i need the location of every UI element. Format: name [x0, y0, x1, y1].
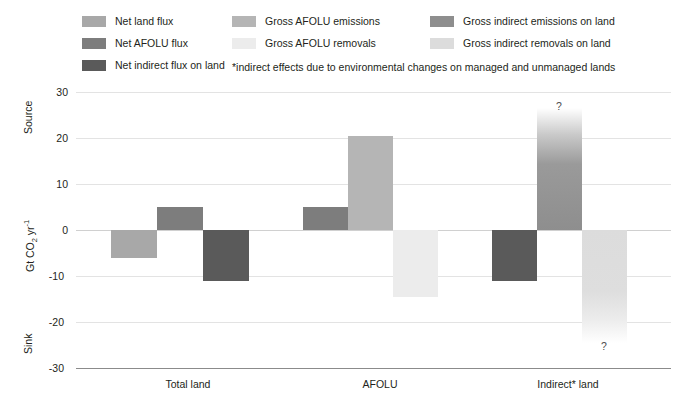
legend-swatch-gross-afolu-emissions — [232, 16, 256, 27]
legend-label: Net land flux — [115, 16, 173, 27]
x-axis-label-total-land: Total land — [128, 378, 248, 390]
legend-net-land-flux: Net land flux — [82, 16, 173, 27]
legend-swatch-net-afolu-flux — [82, 38, 106, 49]
axis-source-label: Source — [22, 101, 34, 134]
legend-net-indirect-flux-on-land: Net indirect flux on land — [82, 60, 225, 71]
axis-sink-label: Sink — [22, 334, 34, 354]
legend-label: Gross indirect emissions on land — [463, 16, 615, 27]
legend-footnote: *indirect effects due to environmental c… — [232, 61, 615, 73]
legend-swatch-gross-afolu-removals — [232, 38, 256, 49]
bar-total-land-net-afolu-flux — [157, 207, 203, 230]
legend-swatch-net-indirect-flux-on-land — [82, 60, 106, 71]
legend-gross-afolu-emissions: Gross AFOLU emissions — [232, 16, 380, 27]
bar-afolu-net-afolu-flux — [303, 207, 348, 230]
chart-page: Net land flux Net AFOLU flux Net indirec… — [0, 0, 684, 411]
bar-afolu-gross-removals — [393, 230, 438, 297]
y-tick-label-0: 0 — [34, 224, 68, 236]
axis-unit-prefix: Gt CO — [24, 242, 36, 272]
legend-gross-indirect-emissions-on-land: Gross indirect emissions on land — [430, 16, 615, 27]
axis-area: ? ? — [76, 92, 671, 368]
y-tick-label-30: 30 — [34, 86, 68, 98]
chart-legend: Net land flux Net AFOLU flux Net indirec… — [0, 0, 684, 82]
y-tick-label--20: -20 — [30, 316, 64, 328]
bar-total-land-net-indirect-flux — [203, 230, 249, 281]
bar-afolu-gross-emissions — [348, 136, 393, 230]
axis-unit-subscript: 2 — [30, 238, 39, 242]
legend-gross-afolu-removals: Gross AFOLU removals — [232, 38, 376, 49]
bar-indirect-net-indirect-flux — [492, 230, 537, 281]
plot-area: Source Sink Gt CO2 yr-1 30 20 10 0 -10 -… — [0, 82, 684, 411]
legend-label: Gross AFOLU emissions — [265, 16, 380, 27]
legend-label: Gross indirect removals on land — [463, 38, 611, 49]
axis-baseline — [76, 368, 671, 369]
x-axis-label-indirect-land: Indirect* land — [508, 378, 628, 390]
x-axis-label-afolu: AFOLU — [320, 378, 440, 390]
legend-gross-indirect-removals-on-land: Gross indirect removals on land — [430, 38, 611, 49]
bar-total-land-net-land-flux — [111, 230, 157, 258]
bar-indirect-gross-emissions — [537, 108, 582, 230]
y-tick-label--30: -30 — [30, 362, 64, 374]
bar-indirect-gross-removals — [582, 230, 627, 343]
gridline-30 — [76, 92, 671, 93]
legend-swatch-gross-indirect-emissions-on-land — [430, 16, 454, 27]
axis-unit-superscript: -1 — [22, 220, 31, 227]
legend-label: Gross AFOLU removals — [265, 38, 376, 49]
uncertainty-marker-removals: ? — [594, 340, 614, 352]
legend-net-afolu-flux: Net AFOLU flux — [82, 38, 188, 49]
y-tick-label-10: 10 — [34, 178, 68, 190]
legend-swatch-gross-indirect-removals-on-land — [430, 38, 454, 49]
y-tick-label--10: -10 — [30, 270, 64, 282]
legend-label: Net indirect flux on land — [115, 60, 225, 71]
y-tick-label-20: 20 — [34, 132, 68, 144]
legend-label: Net AFOLU flux — [115, 38, 188, 49]
legend-swatch-net-land-flux — [82, 16, 106, 27]
uncertainty-marker-emissions: ? — [549, 100, 569, 112]
